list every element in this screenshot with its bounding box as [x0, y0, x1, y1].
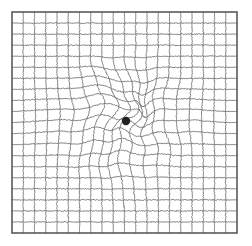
- grid-line-horizontal: [12, 103, 237, 117]
- amsler-grid-chart: [0, 0, 252, 246]
- grid-line-horizontal: [12, 127, 237, 137]
- fixation-dot: [122, 117, 130, 125]
- fixation-dot-circle: [122, 117, 130, 125]
- amsler-grid-svg: [0, 0, 252, 246]
